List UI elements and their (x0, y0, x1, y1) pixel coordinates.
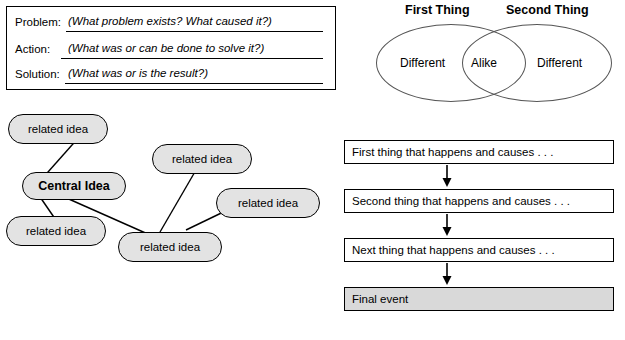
venn-diagram: First Thing Second Thing Different Alike… (370, 0, 622, 112)
web-node-1: related idea (8, 114, 108, 144)
flow-step-3-text: Next thing that happens and causes . . . (345, 244, 555, 256)
flow-step-2: Second thing that happens and causes . .… (344, 189, 614, 213)
action-rule (61, 58, 323, 59)
flow-step-4-text: Final event (345, 293, 408, 305)
problem-label: Problem: (15, 16, 61, 28)
flow-step-2-text: Second thing that happens and causes . .… (345, 195, 570, 207)
flow-arrow-2-icon (440, 214, 454, 236)
action-row: Action: (What was or can be done to solv… (15, 40, 327, 62)
solution-prompt-text: (What was or is the result?) (68, 67, 208, 79)
venn-title-left: First Thing (405, 3, 470, 17)
action-prompt-text: (What was or can be done to solve it?) (68, 42, 264, 54)
problem-row: Problem: (What problem exists? What caus… (15, 13, 327, 35)
flow-step-1: First thing that happens and causes . . … (344, 140, 614, 164)
web-node-5: related idea (118, 232, 222, 262)
solution-label: Solution: (15, 68, 60, 80)
web-node-2: related idea (152, 144, 252, 174)
flow-step-3: Next thing that happens and causes . . . (344, 238, 614, 262)
venn-title-right: Second Thing (506, 3, 589, 17)
flow-step-4: Final event (344, 287, 614, 311)
venn-center-label: Alike (471, 56, 497, 70)
problem-action-solution-box: Problem: (What problem exists? What caus… (6, 6, 336, 90)
flow-arrow-1-icon (440, 165, 454, 187)
diagram-canvas: Problem: (What problem exists? What caus… (0, 0, 625, 340)
problem-prompt-text: (What problem exists? What caused it?) (68, 15, 272, 27)
flow-arrow-3-icon (440, 263, 454, 285)
action-label: Action: (15, 43, 50, 55)
central-idea-web: related idea Central Idea related idea r… (0, 108, 340, 298)
web-node-4: related idea (6, 216, 106, 246)
flow-step-1-text: First thing that happens and causes . . … (345, 146, 553, 158)
problem-rule (66, 31, 323, 32)
solution-rule (65, 83, 323, 84)
venn-right-label: Different (537, 56, 582, 70)
sequence-flow-chart: First thing that happens and causes . . … (344, 140, 620, 330)
venn-left-label: Different (400, 56, 445, 70)
web-node-3: related idea (216, 188, 320, 218)
solution-row: Solution: (What was or is the result?) (15, 65, 327, 87)
web-node-central: Central Idea (22, 172, 126, 200)
